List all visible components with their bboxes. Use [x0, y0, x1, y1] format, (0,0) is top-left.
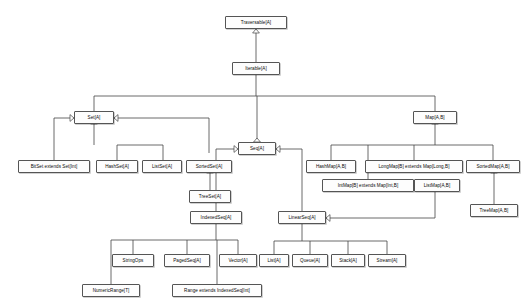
class-node-label: NumericRange[T] [93, 288, 130, 294]
class-hierarchy-diagram: Traversable[A]Iterable[A]Set[A]Seq[A]Map… [0, 0, 530, 308]
class-node-label: ListMap[A,B] [424, 183, 451, 189]
class-node-label: IntMap[B] extends Map[Int,B] [338, 183, 399, 189]
class-node-seq[interactable]: Seq[A] [238, 142, 276, 155]
class-node-listset[interactable]: ListSet[A] [142, 160, 182, 173]
class-node-stack[interactable]: Stack[A] [331, 254, 365, 267]
class-node-hashmap[interactable]: HashMap[A,B] [306, 160, 356, 173]
class-node-sortedset[interactable]: SortedSet[A] [186, 160, 232, 173]
class-node-label: SortedMap[A,B] [476, 164, 509, 170]
class-node-linearseq[interactable]: LinearSeq[A] [278, 211, 326, 224]
class-node-queue[interactable]: Queue[A] [292, 254, 328, 267]
class-node-label: TreeSet[A] [199, 194, 221, 200]
class-node-stringops[interactable]: StringOps [112, 254, 154, 267]
class-node-label: List[A] [267, 258, 280, 264]
class-node-iterable[interactable]: Iterable[A] [232, 62, 280, 75]
class-node-set[interactable]: Set[A] [74, 111, 114, 124]
class-node-label: HashMap[A,B] [316, 164, 346, 170]
class-node-listmap[interactable]: ListMap[A,B] [414, 179, 460, 192]
class-node-label: Traversable[A] [241, 20, 271, 26]
node-layer: Traversable[A]Iterable[A]Set[A]Seq[A]Map… [0, 0, 530, 308]
class-node-label: Vector[A] [228, 258, 247, 264]
class-node-stream[interactable]: Stream[A] [368, 254, 406, 267]
class-node-bitset[interactable]: BitSet extends Set[Int] [18, 160, 90, 173]
class-node-label: LinearSeq[A] [288, 215, 315, 221]
class-node-label: Queue[A] [300, 258, 320, 264]
class-node-label: Map[A,B] [425, 115, 444, 121]
class-node-range[interactable]: Range extends IndexedSeq[Int] [172, 284, 262, 297]
class-node-label: BitSet extends Set[Int] [31, 164, 78, 170]
class-node-label: HashSet[A] [105, 164, 129, 170]
class-node-label: IndexedSeq[A] [201, 215, 232, 221]
class-node-label: TreeMap[A,B] [480, 208, 509, 214]
class-node-treemap[interactable]: TreeMap[A,B] [470, 204, 518, 217]
class-node-list[interactable]: List[A] [259, 254, 289, 267]
class-node-label: LongMap[B] extends Map[Long,B] [379, 164, 450, 170]
class-node-label: Stream[A] [377, 258, 398, 264]
class-node-sortedmap[interactable]: SortedMap[A,B] [466, 160, 520, 173]
class-node-map[interactable]: Map[A,B] [413, 111, 457, 124]
class-node-traversable[interactable]: Traversable[A] [225, 16, 287, 29]
class-node-label: SortedSet[A] [196, 164, 223, 170]
class-node-label: Seq[A] [250, 146, 264, 152]
class-node-label: Stack[A] [339, 258, 357, 264]
class-node-intmap[interactable]: IntMap[B] extends Map[Int,B] [322, 179, 414, 192]
class-node-treeset[interactable]: TreeSet[A] [189, 190, 231, 203]
class-node-label: PagedSeq[A] [173, 258, 201, 264]
class-node-label: Set[A] [88, 115, 101, 121]
class-node-indexedseq[interactable]: IndexedSeq[A] [190, 211, 242, 224]
class-node-hashset[interactable]: HashSet[A] [96, 160, 138, 173]
class-node-pagedseq[interactable]: PagedSeq[A] [164, 254, 210, 267]
class-node-label: StringOps [123, 258, 144, 264]
class-node-label: Range extends IndexedSeq[Int] [184, 288, 250, 294]
class-node-longmap[interactable]: LongMap[B] extends Map[Long,B] [365, 160, 463, 173]
class-node-vector[interactable]: Vector[A] [219, 254, 257, 267]
class-node-label: Iterable[A] [245, 66, 267, 72]
class-node-numericrange[interactable]: NumericRange[T] [82, 284, 140, 297]
class-node-label: ListSet[A] [152, 164, 172, 170]
